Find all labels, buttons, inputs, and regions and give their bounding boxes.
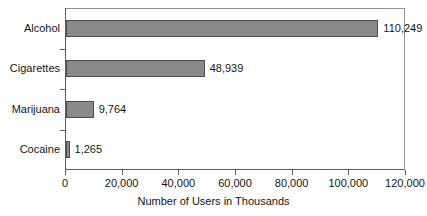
value-tick-label: 120,000 — [385, 178, 425, 189]
value-tick-label: 40,000 — [162, 178, 196, 189]
value-tick-label: 100,000 — [328, 178, 368, 189]
bar-row: 9,764 — [66, 101, 126, 118]
bar-alcohol — [66, 20, 378, 37]
value-tick-label: 80,000 — [275, 178, 309, 189]
bar-marijuana — [66, 101, 94, 118]
category-tick — [60, 49, 65, 50]
bar-chart: 110,24948,9399,7641,265 AlcoholCigarette… — [0, 0, 427, 216]
bar-row: 48,939 — [66, 60, 243, 77]
category-label-alcohol: Alcohol — [24, 23, 60, 34]
value-tick — [235, 170, 236, 175]
bar-value-label: 9,764 — [99, 104, 127, 115]
category-tick — [60, 130, 65, 131]
x-axis-title: Number of Users in Thousands — [0, 196, 427, 207]
category-label-marijuana: Marijuana — [12, 104, 60, 115]
value-tick — [122, 170, 123, 175]
bar-row: 1,265 — [66, 141, 102, 158]
value-tick — [348, 170, 349, 175]
value-tick-label: 60,000 — [218, 178, 252, 189]
bar-value-label: 110,249 — [383, 23, 422, 34]
category-tick — [60, 89, 65, 90]
category-label-cigarettes: Cigarettes — [10, 63, 60, 74]
bar-cocaine — [66, 141, 70, 158]
value-tick — [178, 170, 179, 175]
bar-cigarettes — [66, 60, 205, 77]
bar-value-label: 1,265 — [75, 144, 103, 155]
value-tick — [65, 170, 66, 175]
value-tick-label: 20,000 — [105, 178, 139, 189]
value-tick-label: 0 — [62, 178, 68, 189]
bar-row: 110,249 — [66, 20, 422, 37]
value-tick — [405, 170, 406, 175]
value-tick — [292, 170, 293, 175]
bar-value-label: 48,939 — [210, 63, 244, 74]
category-label-cocaine: Cocaine — [20, 144, 60, 155]
